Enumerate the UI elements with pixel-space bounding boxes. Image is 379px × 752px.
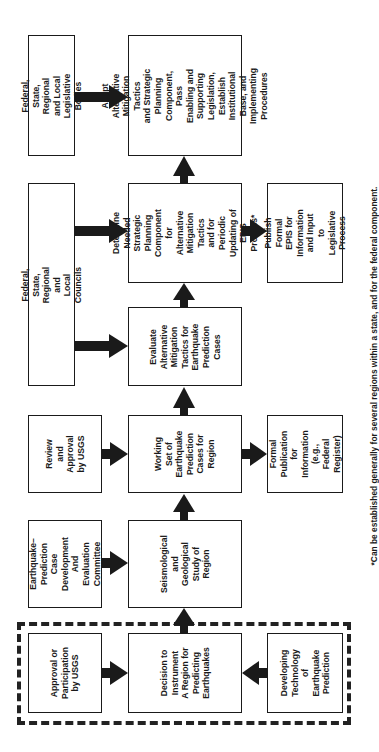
arrows-layer — [0, 0, 379, 752]
arrow-right-icon — [75, 334, 128, 358]
arrow-up-icon — [173, 608, 195, 633]
arrow-right-icon — [242, 442, 267, 466]
arrow-up-icon — [173, 156, 195, 183]
arrow-left-icon — [242, 661, 267, 685]
arrow-right-icon — [102, 551, 128, 575]
arrow-up-icon — [173, 387, 195, 415]
arrow-right-icon — [102, 442, 128, 466]
arrow-up-icon — [173, 283, 195, 307]
arrow-right-icon — [102, 661, 128, 685]
arrow-right-icon — [75, 219, 128, 243]
arrow-up-icon — [173, 494, 195, 520]
arrow-right-icon — [75, 85, 128, 109]
footnote: *Can be established generally for severa… — [369, 187, 379, 566]
arrow-right-icon — [242, 219, 267, 243]
flowchart-canvas: Federal, State, Regional and Local Legis… — [0, 0, 379, 752]
